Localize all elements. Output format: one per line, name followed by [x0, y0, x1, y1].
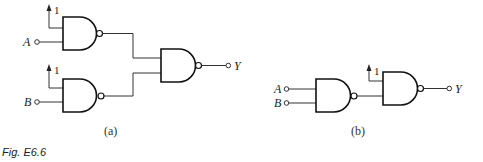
nand-gate-a3: Y: [161, 49, 242, 82]
nand-gate-b1: [316, 79, 357, 112]
wire-g2-g3: [104, 73, 161, 96]
nand-gate-a2: 1 B: [24, 64, 104, 112]
inversion-bubble: [351, 93, 357, 99]
output-label-y: Y: [234, 59, 242, 73]
nand-gate-a1: 1 A: [22, 4, 103, 50]
input-label-a: A: [22, 35, 31, 49]
logic-diagram: 1 A 1 B Y: [0, 0, 483, 162]
output-terminal-y: [447, 86, 452, 91]
inversion-bubble: [418, 86, 424, 92]
input-terminal-b: [284, 101, 289, 106]
arrowhead-icon: [367, 64, 372, 71]
nand-body: [383, 72, 418, 105]
const-label: 1: [54, 4, 60, 16]
inversion-bubble: [196, 63, 202, 69]
const-wire: [49, 24, 63, 28]
nand-body: [316, 79, 351, 112]
input-label-b: B: [274, 96, 282, 110]
panel-a: 1 A 1 B Y: [22, 4, 242, 138]
nand-body: [63, 17, 97, 50]
panel-label-b: (b): [351, 124, 365, 138]
output-terminal-y: [226, 63, 231, 68]
panel-b: A B 1 Y (b): [273, 64, 463, 138]
input-terminal-b: [35, 100, 40, 105]
const-label: 1: [374, 65, 380, 77]
arrowhead-icon: [47, 4, 52, 11]
wire-g1-g3: [103, 34, 162, 59]
inversion-bubble: [98, 93, 104, 99]
figure-caption: Fig. E6.6: [2, 146, 47, 158]
nand-body: [161, 49, 196, 82]
output-label-y: Y: [455, 82, 463, 96]
arrowhead-icon: [47, 64, 52, 71]
input-terminal-a: [284, 87, 289, 92]
nand-gate-b2: 1 Y: [367, 64, 464, 105]
panel-label-a: (a): [104, 124, 117, 138]
input-label-b: B: [24, 95, 32, 109]
nand-body: [63, 79, 97, 112]
inversion-bubble: [97, 31, 103, 37]
input-label-a: A: [273, 82, 282, 96]
const-label: 1: [54, 64, 60, 76]
input-terminal-a: [35, 40, 40, 45]
